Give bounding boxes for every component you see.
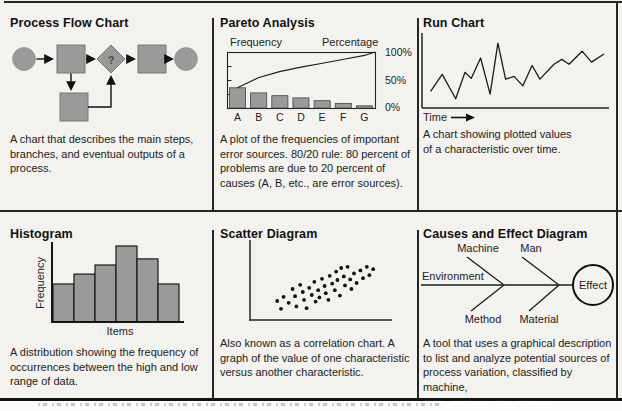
time-label: Time — [423, 111, 447, 123]
svg-text:G: G — [360, 111, 368, 123]
top-rule — [4, 1, 622, 3]
panel-title-pareto: Pareto Analysis — [220, 16, 315, 30]
flow-end-circle — [175, 48, 198, 71]
pareto-bars — [230, 88, 373, 108]
middle-rule — [0, 210, 622, 212]
histogram-bars — [53, 246, 179, 322]
panel-description-process-flow: A chart that describes the main steps, b… — [10, 132, 208, 176]
fishbone-label-man: Man — [520, 242, 541, 254]
fishbone-label-environment: Environment — [422, 270, 484, 282]
col-divider-row1-b — [417, 18, 419, 211]
pareto-right-tick-0: 0% — [385, 101, 400, 113]
svg-text:E: E — [319, 111, 326, 123]
histogram-y-axis-label: Frequency — [34, 247, 46, 319]
flow-arrow-return-up — [88, 77, 111, 107]
flow-branch-box — [60, 93, 88, 121]
quality-tools-figure: Process Flow Chart ? A chart that descri… — [0, 0, 622, 411]
histogram-chart — [50, 242, 188, 326]
panel-title-process-flow: Process Flow Chart — [10, 16, 129, 30]
histogram-x-axis-label: Items — [85, 325, 155, 337]
col-divider-row1-a — [212, 18, 214, 211]
page-margin-strip — [0, 401, 622, 411]
svg-text:C: C — [276, 111, 284, 123]
pareto-right-tick-50: 50% — [385, 74, 406, 86]
fishbone-label-effect: Effect — [579, 279, 607, 291]
right-arrow-icon — [451, 113, 475, 122]
fishbone-bone-man — [522, 257, 559, 285]
pareto-cumulative-line — [237, 52, 375, 88]
panel-title-histogram: Histogram — [10, 227, 73, 241]
pareto-chart: ABCDEFG — [227, 52, 387, 126]
flow-step-box-2 — [138, 45, 166, 73]
right-border — [616, 2, 618, 399]
panel-description-run: A chart showing plotted values of a char… — [423, 127, 613, 156]
scatter-plot — [248, 240, 396, 324]
fishbone-label-method: Method — [465, 313, 502, 325]
svg-text:B: B — [255, 111, 262, 123]
fishbone-label-machine: Machine — [457, 242, 499, 254]
fishbone-label-material: Material — [519, 313, 558, 325]
cropped-caption-fragment — [38, 403, 440, 406]
scatter-points — [275, 265, 375, 311]
panel-description-fishbone: A tool that uses a graphical description… — [423, 336, 615, 410]
fishbone-bone-material — [529, 285, 559, 311]
svg-text:F: F — [340, 111, 346, 123]
pareto-percentage-label: Percentage — [322, 36, 378, 48]
run-chart — [420, 33, 612, 111]
panel-description-scatter: Also known as a correlation chart. A gra… — [220, 336, 412, 380]
flow-start-circle — [13, 48, 36, 71]
pareto-frequency-label: Frequency — [230, 36, 282, 48]
pareto-right-tick-100: 100% — [385, 46, 412, 58]
panel-description-histogram: A distribution showing the frequency of … — [10, 345, 208, 389]
process-flow-diagram: ? — [8, 38, 206, 126]
pareto-category-labels: ABCDEFG — [234, 111, 368, 123]
svg-text:D: D — [297, 111, 305, 123]
run-data-line — [431, 43, 604, 99]
fishbone-bone-method — [471, 285, 504, 311]
panel-description-pareto: A plot of the frequencies of important e… — [220, 132, 412, 191]
svg-text:A: A — [234, 111, 241, 123]
panel-title-scatter: Scatter Diagram — [220, 227, 317, 241]
run-time-axis-label: Time — [423, 111, 475, 123]
fishbone-diagram: Machine Man Environment Method Material … — [419, 238, 619, 328]
panel-title-run: Run Chart — [423, 16, 484, 30]
flow-decision-question: ? — [108, 54, 115, 66]
flow-step-box-1 — [57, 45, 85, 73]
col-divider-row2-a — [212, 230, 214, 398]
